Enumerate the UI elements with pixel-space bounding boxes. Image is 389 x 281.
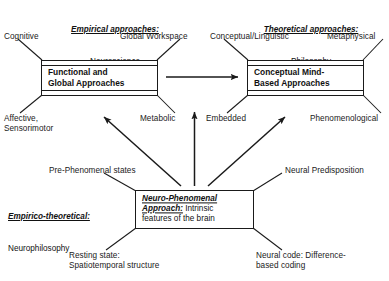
label-metaphysical: Metaphysical: [327, 32, 375, 42]
diagram-canvas: Empirical approaches: Neuroscience Theor…: [0, 0, 389, 281]
label-affective-sensorimotor: Affective, Sensorimotor: [4, 114, 53, 135]
box-functional-global-approaches-label: Functional and Global Approaches: [48, 67, 153, 88]
box-inner-rule-top: [248, 65, 363, 66]
leader-metabolic: [157, 95, 175, 113]
label-neural-predisposition: Neural Predisposition: [285, 166, 364, 176]
label-resting-state: Resting state: Spatiotemporal structure: [69, 251, 159, 272]
label-cognitive: Cognitive: [4, 32, 39, 42]
label-conceptual-linguistic: Conceptual/Linguistic: [210, 32, 289, 42]
box-inner-rule-bottom: [42, 90, 157, 91]
arrow-diagonal-up-right: [208, 117, 285, 186]
box-neuro-phenomenal-approach-label: Neuro-Phenomenal Approach: Intrinsic fea…: [142, 194, 249, 225]
label-metabolic: Metabolic: [140, 114, 176, 124]
box-inner-rule-bottom: [248, 90, 363, 91]
leader-embedded: [227, 95, 248, 113]
box-functional-global-approaches[interactable]: Functional and Global Approaches: [41, 60, 158, 96]
label-phenomenological: Phenomenological: [310, 114, 378, 124]
label-pre-phenomenal-states: Pre-Phenomenal states: [49, 166, 136, 176]
box-conceptual-mind-based-approaches[interactable]: Conceptual Mind- Based Approaches: [247, 60, 364, 96]
leader-phenomenological: [363, 95, 381, 113]
leader-neural-predisposition: [253, 173, 282, 191]
heading-empirico-theoretical-title: Empirico-theoretical:: [8, 212, 138, 223]
label-embedded: Embedded: [206, 114, 246, 124]
box-neuro-phenomenal-approach[interactable]: Neuro-Phenomenal Approach: Intrinsic fea…: [135, 190, 254, 229]
leader-affective-sensorimotor: [20, 95, 42, 113]
leader-neural-code: [253, 228, 282, 250]
box-conceptual-mind-based-approaches-label: Conceptual Mind- Based Approaches: [254, 67, 359, 88]
box-inner-rule-top: [42, 65, 157, 66]
label-global-workspace: Global Workspace: [120, 32, 188, 42]
label-neural-code: Neural code: Difference- based coding: [256, 251, 346, 272]
